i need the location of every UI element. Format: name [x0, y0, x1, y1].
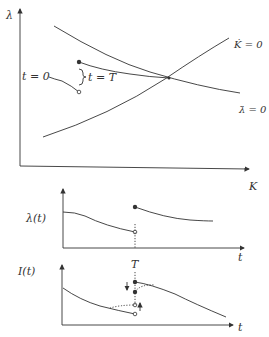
k-dot-zero-curve: [43, 38, 229, 137]
lambda-dot-zero-label: λ̇ = 0: [238, 104, 267, 115]
lambda-t-curve-before-T: [63, 212, 135, 232]
path-before-T: [49, 77, 79, 92]
brace-icon: [79, 69, 86, 85]
investment-y-label: I(t): [17, 265, 35, 278]
investment-open-point-low: [133, 312, 137, 316]
k-axis: [20, 166, 249, 169]
T-label: T: [131, 258, 140, 271]
steady-state-point: [168, 77, 171, 80]
lambda-dot-zero-curve: [54, 26, 240, 93]
investment-curve-before-T: [63, 288, 135, 314]
pre-jump-point-open: [77, 90, 81, 94]
lambda-axis-label: λ: [5, 9, 13, 22]
lambda-t-y-label: λ(t): [25, 212, 46, 225]
phase-diagram: λ K λ̇ = 0 K̇ = 0 t = 0 t = T: [5, 9, 267, 193]
investment-time-plot: I(t) t T: [17, 258, 243, 334]
k-dot-zero-label: K̇ = 0: [233, 39, 263, 50]
investment-x-label: t: [238, 321, 243, 334]
tT-label: t = T: [88, 71, 118, 84]
lambda-t-x-label: t: [238, 251, 243, 264]
lambda-t-filled-point: [133, 205, 137, 209]
investment-alt-path-before-T: [110, 305, 135, 308]
k-axis-label: K: [248, 180, 258, 193]
jump-point-filled: [77, 60, 81, 64]
diagram-canvas: λ K λ̇ = 0 K̇ = 0 t = 0 t = T λ(t) t: [0, 0, 269, 337]
investment-curve-after-T: [135, 282, 226, 317]
t0-label: t = 0: [22, 70, 50, 83]
lambda-t-curve-after-T: [135, 207, 213, 221]
lambda-time-plot: λ(t) t: [25, 189, 244, 264]
